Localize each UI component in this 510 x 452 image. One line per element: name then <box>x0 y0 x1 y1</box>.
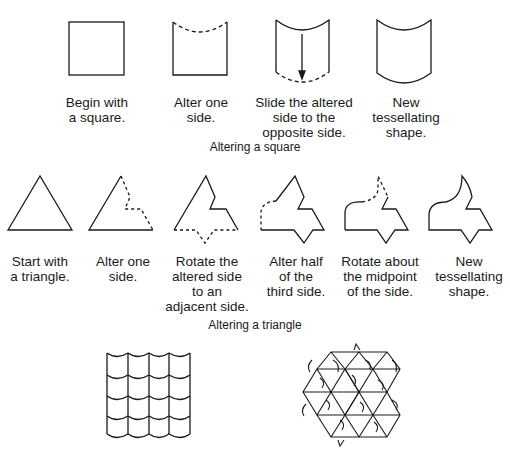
square-step-1-label: Begin with a square. <box>56 95 138 125</box>
triangle-tessellation <box>302 344 400 446</box>
triangle-step-3-label: Rotate the altered side to an adjacent s… <box>162 254 252 314</box>
square-step-4-shape <box>377 20 431 83</box>
diagram-canvas <box>0 0 510 452</box>
square-step-3-label: Slide the altered side to the opposite s… <box>252 95 356 140</box>
triangle-step-3-shape <box>174 176 238 243</box>
triangle-step-5-shape <box>345 176 408 243</box>
triangle-step-4-label: Alter half of the third side. <box>258 254 334 299</box>
square-tessellation <box>107 353 190 438</box>
triangle-step-2-shape <box>89 176 153 230</box>
triangle-step-1-shape <box>8 176 72 230</box>
square-step-2-label: Alter one side. <box>160 95 242 125</box>
triangle-step-6-label: New tessellating shape. <box>428 254 510 299</box>
triangle-step-4-shape <box>261 176 324 243</box>
triangle-step-5-label: Rotate about the midpoint of the side. <box>334 254 426 299</box>
square-step-2-shape <box>173 22 227 75</box>
square-step-4-label: New tessellating shape. <box>364 95 448 140</box>
square-section-caption: Altering a square <box>180 140 330 154</box>
triangle-section-caption: Altering a triangle <box>180 318 330 332</box>
triangle-step-1-label: Start with a triangle. <box>0 254 80 284</box>
square-step-1-shape <box>69 22 124 75</box>
triangle-step-6-shape <box>429 176 492 243</box>
square-step-3-shape <box>276 20 329 82</box>
triangle-step-2-label: Alter one side. <box>84 254 162 284</box>
